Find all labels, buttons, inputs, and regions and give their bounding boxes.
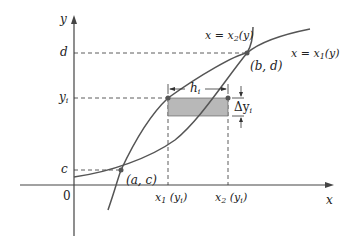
- x1-yi-label: x1 (yi): [155, 192, 187, 205]
- point-a-c-label: (a, c): [126, 174, 157, 186]
- curve-x1-tail: (y): [325, 47, 340, 60]
- c-label: c: [61, 163, 68, 175]
- point-a-c: [119, 168, 124, 173]
- x-axis-arrow-icon: [325, 182, 334, 188]
- hi-label: hi: [190, 82, 200, 96]
- hi-sub: i: [198, 87, 201, 96]
- x2-arg: (y: [226, 191, 240, 204]
- x1-close: ): [183, 191, 187, 204]
- dyi-main: Δy: [234, 100, 249, 114]
- dyi-label: Δyi: [234, 101, 252, 115]
- hi-arrowhead-left-icon: [169, 87, 175, 91]
- dyi-arrowhead-bottom-icon: [239, 117, 243, 122]
- x2-close: ): [243, 191, 247, 204]
- strip-rectangle: [168, 98, 228, 116]
- curve-x2-label: x = x2(y): [205, 30, 254, 43]
- x2-yi-label: x2 (yi): [215, 192, 247, 205]
- dyi-sub: i: [249, 106, 252, 115]
- x-axis-label: x: [326, 194, 333, 206]
- x1-arg: (y: [166, 191, 180, 204]
- curve-x2-main: x = x: [205, 29, 234, 42]
- diagram-svg: [0, 0, 350, 250]
- curve-x1-label: x = x1(y): [291, 48, 340, 61]
- yi-sub: i: [66, 96, 69, 105]
- diagram-canvas: y x 0 d yi c x = x2(y) x = x1(y) (b, d) …: [0, 0, 350, 250]
- hi-main: h: [190, 81, 198, 95]
- dyi-arrowhead-top-icon: [239, 92, 243, 97]
- hi-arrowhead-right-icon: [221, 87, 227, 91]
- curve-x2-tail: (y): [239, 29, 254, 42]
- y-axis-label: y: [60, 13, 67, 25]
- point-b-d-label: (b, d): [250, 60, 282, 72]
- yi-main: y: [59, 90, 66, 104]
- point-x2-yi: [226, 96, 231, 101]
- d-label: d: [60, 46, 68, 58]
- curve-x1-main: x = x: [291, 47, 320, 60]
- yi-label: yi: [59, 91, 68, 105]
- y-axis-arrow-icon: [71, 15, 77, 24]
- point-x1-yi: [166, 96, 171, 101]
- origin-label: 0: [63, 190, 71, 202]
- point-b-d: [245, 51, 250, 56]
